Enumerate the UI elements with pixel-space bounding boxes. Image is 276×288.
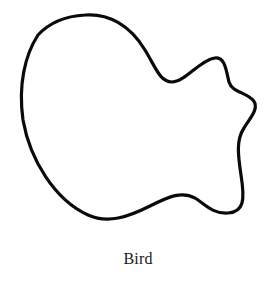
bird-outline-path	[21, 15, 255, 219]
figure-caption: Bird	[0, 250, 276, 268]
figure-canvas: Bird	[0, 0, 276, 288]
bird-contour-shape	[0, 0, 276, 288]
